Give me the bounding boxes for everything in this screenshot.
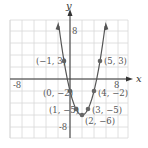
point-label: (4, −2) [98,88,128,98]
data-point [80,113,85,118]
y-tick-label: 8 [72,26,77,36]
data-point [86,107,91,112]
point-label: (−1, 3) [36,56,66,66]
point-label: (2, −6) [85,116,115,126]
point-label: (0, −2) [43,88,73,98]
data-point [98,59,103,64]
axes: xy-888-8 [10,0,142,138]
y-axis-label: y [65,0,72,11]
data-point [92,89,97,94]
x-axis-arrow-icon [126,77,133,82]
x-axis-label: x [136,73,142,84]
parabola-chart: xy-888-8 (−1, 3)(0, −2)(1, −5)(2, −6)(3,… [0,0,148,148]
point-label: (1, −5) [49,105,79,115]
point-label: (3, −5) [92,105,122,115]
x-tick-label: -8 [13,80,21,90]
point-label: (5, 3) [104,56,127,66]
y-tick-label: -8 [59,122,67,132]
